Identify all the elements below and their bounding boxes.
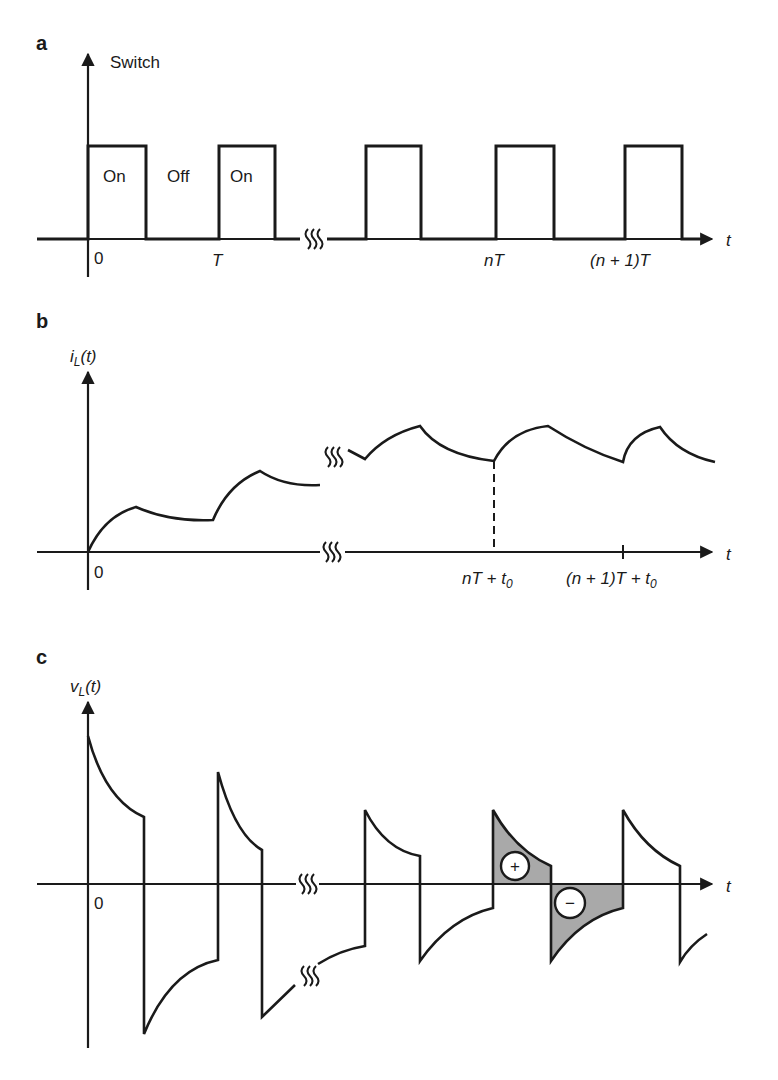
- tick-label-nT-t0: nT + t0: [462, 569, 513, 591]
- state-label-off: Off: [167, 167, 190, 186]
- switch-pulses-late: [327, 146, 700, 239]
- origin-label: 0: [94, 894, 103, 913]
- switch-axis-label: Switch: [110, 53, 160, 72]
- axis-break-icon: [306, 229, 323, 249]
- switch-pulses-early: [37, 146, 300, 239]
- panel-c-inductor-voltage: c vL(t) + − 0 t: [36, 646, 732, 1048]
- tick-label-nT: nT: [484, 251, 505, 270]
- axis-break-icon: [324, 542, 341, 562]
- curve-break-icon: [302, 966, 319, 986]
- tick-label-n-plus-1-T: (n + 1)T: [590, 251, 652, 270]
- state-label-on: On: [103, 167, 126, 186]
- current-curve-steady: [348, 426, 715, 462]
- state-label-on-2: On: [230, 167, 253, 186]
- vl-axis-label: vL(t): [70, 677, 101, 699]
- tick-label-T: T: [212, 251, 224, 270]
- tick-label-n-plus-1-T-t0: (n + 1)T + t0: [566, 569, 657, 591]
- negative-area-marker: −: [555, 888, 585, 918]
- inductor-waveform-figure: a Switch On Off On 0 T nT (n + 1)T t b i…: [0, 0, 778, 1080]
- x-axis-label-t: t: [726, 545, 732, 564]
- positive-area-marker: +: [501, 852, 529, 880]
- voltage-curve-steady: [318, 810, 707, 964]
- panel-a-switch-waveform: a Switch On Off On 0 T nT (n + 1)T t: [36, 32, 732, 277]
- il-axis-label: iL(t): [70, 347, 97, 369]
- plus-sign-icon: +: [510, 857, 520, 876]
- x-axis-label-t: t: [726, 231, 732, 250]
- origin-label: 0: [94, 563, 103, 582]
- panel-b-letter: b: [36, 310, 48, 332]
- origin-label: 0: [94, 249, 103, 268]
- minus-sign-icon: −: [565, 894, 575, 913]
- current-curve-early: [88, 471, 320, 552]
- axis-break-icon: [300, 874, 317, 894]
- panel-a-letter: a: [36, 32, 48, 54]
- x-axis-label-t: t: [726, 877, 732, 896]
- panel-b-inductor-current: b iL(t) 0 nT + t0 (n + 1)T + t0 t: [36, 310, 732, 591]
- curve-break-icon: [326, 447, 343, 467]
- panel-c-letter: c: [36, 646, 47, 668]
